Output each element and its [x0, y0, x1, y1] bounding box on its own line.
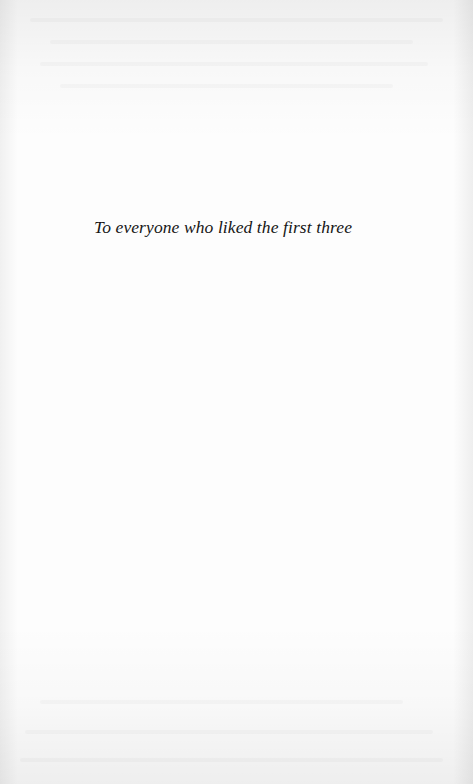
show-through-artifact — [50, 40, 413, 44]
show-through-artifact — [25, 730, 433, 734]
show-through-artifact — [40, 62, 428, 66]
show-through-artifact — [40, 700, 403, 704]
show-through-artifact — [60, 84, 393, 88]
dedication-text: To everyone who liked the first three — [86, 216, 360, 238]
show-through-artifact — [30, 18, 443, 22]
show-through-artifact — [20, 758, 443, 762]
book-page: To everyone who liked the first three — [0, 0, 473, 784]
